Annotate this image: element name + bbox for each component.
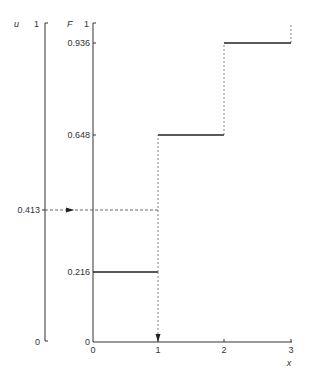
F-axis: F 1 0.936 0.648 0.216 0	[67, 19, 96, 347]
x-axis: 0 1 2 3 x	[90, 339, 293, 368]
u-axis-title: u	[14, 19, 19, 29]
x-tick-3: 3	[288, 345, 293, 355]
F-tick-0216: 0.216	[67, 267, 90, 277]
x-axis-title: x	[286, 358, 292, 368]
x-tick-0: 0	[90, 345, 95, 355]
u-axis: u 1 0 0.413	[14, 19, 48, 347]
x-tick-2: 2	[221, 345, 226, 355]
u-tick-0413: 0.413	[17, 205, 40, 215]
u-tick-0: 0	[35, 337, 40, 347]
F-axis-title: F	[67, 19, 73, 29]
arrow-right-icon	[66, 208, 74, 213]
arrow-down-icon	[156, 334, 161, 342]
x-tick-1: 1	[155, 345, 160, 355]
step-cdf	[93, 23, 291, 272]
u-tick-1: 1	[34, 19, 39, 29]
F-tick-1: 1	[84, 19, 89, 29]
inverse-transform-chart: u 1 0 0.413 F 1 0.936 0.648 0.216 0 0 1 …	[0, 0, 311, 378]
F-tick-0936: 0.936	[67, 38, 90, 48]
F-tick-0: 0	[85, 337, 90, 347]
sampling-path	[45, 208, 161, 343]
F-tick-0648: 0.648	[67, 130, 90, 140]
